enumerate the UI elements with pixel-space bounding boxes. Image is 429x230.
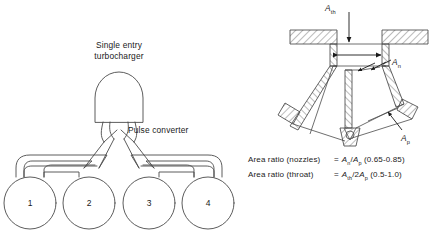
area-ratio-row-nozzles: Area ratio (nozzles) =An/Ap (0.65-0.85) [248,154,405,169]
nozzle-limb-right-wall [382,66,404,107]
throat-area-label: Ath [325,3,336,17]
flange-plate-left [290,30,337,44]
manifold-runner-outer-lower-right [146,161,214,177]
area-ratio-row-throat: Area ratio (throat) =Ath/2Ap (0.5-1.0) [248,169,405,184]
area-ratio-throat-equals: = [334,170,339,179]
pipe-area-subscript: p [407,139,410,145]
flange-plate-right [382,30,428,44]
manifold-runner-inner-right [141,166,214,177]
area-ratio-notes: Area ratio (nozzles) =An/Ap (0.65-0.85) … [248,154,405,183]
area-ratio-throat-numerator-sub: th [347,174,352,180]
diagram-svg: 1 2 3 4 [0,0,429,230]
throat-wall-left [330,44,337,66]
throat-area-subscript: th [331,9,336,15]
area-ratio-nozzles-value: =An/Ap (0.65-0.85) [334,154,405,169]
manifold-runner-outer-lower-left [24,161,92,177]
manifold-runner-inner-branch-left [44,165,95,177]
turbocharger-label: Single entry turbocharger [52,40,186,61]
pipe-area-label: Ap [401,133,410,147]
nozzle-area-subscript: n [398,63,401,69]
manifold-runner-inner-left [24,166,97,177]
cylinder-number-2: 2 [87,198,92,208]
manifold-runner-inner-branch-left2 [44,172,79,177]
manifold-runner-inner-branch-right2 [159,172,194,177]
cylinder-number-group: 1 2 3 4 [28,198,211,208]
area-ratio-nozzles-range: (0.65-0.85) [364,155,405,164]
area-ratio-throat-name: Area ratio (throat) [248,169,334,184]
right-cross-section [278,12,428,146]
turbocharger-label-line2: turbocharger [52,51,186,62]
area-ratio-throat-range: (0.5-1.0) [370,170,402,179]
turbocharger-label-line1: Single entry [52,40,186,51]
area-ratio-nozzles-numerator-sub: n [347,160,350,166]
figure-canvas: 1 2 3 4 [0,0,429,230]
pipe-label-leader [388,112,402,130]
area-ratio-nozzles-denominator-sub: p [358,160,361,166]
area-ratio-nozzles-equals: = [334,155,339,164]
nozzle-area-label: An [392,57,401,71]
left-schematic [4,72,234,229]
cylinder-number-4: 4 [206,198,211,208]
area-ratio-throat-denominator-sub: p [365,174,368,180]
area-ratio-throat-value: =Ath/2Ap (0.5-1.0) [334,169,402,184]
central-divider-wall [345,70,352,128]
pulse-converter-label: Pulse converter [128,125,188,136]
cylinder-number-1: 1 [28,198,33,208]
manifold-runner-inner-branch-right [143,165,194,177]
nozzle-leader-left [358,63,375,71]
turbocharger-body [95,72,143,122]
pulse-converter-leg-left [101,122,104,142]
branch-pipe-left-lower [293,124,345,141]
area-ratio-nozzles-name: Area ratio (nozzles) [248,154,334,169]
cylinder-number-3: 3 [147,198,152,208]
